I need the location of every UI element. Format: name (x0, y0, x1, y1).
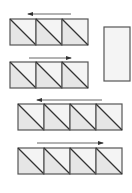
square-cell (70, 104, 96, 130)
square-cell (44, 104, 70, 130)
square-cell (36, 19, 62, 45)
square-cell (10, 62, 36, 88)
square-cell (18, 104, 44, 130)
square-cell (70, 148, 96, 174)
square-cell (44, 148, 70, 174)
row-4 (18, 143, 122, 174)
square-cell (96, 104, 122, 130)
row-1 (10, 14, 88, 45)
row-3 (18, 100, 122, 130)
square-cell (18, 148, 44, 174)
square-cell (36, 62, 62, 88)
square-cell (62, 19, 88, 45)
square-cell (62, 62, 88, 88)
square-cell (10, 19, 36, 45)
tall-rectangle (104, 27, 130, 81)
row-2 (10, 58, 88, 88)
square-cell (96, 148, 122, 174)
diagram-canvas (0, 0, 132, 193)
